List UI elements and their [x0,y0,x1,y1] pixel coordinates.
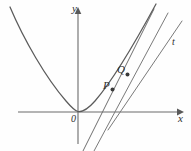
y-axis-label: y [72,3,77,14]
x-axis-label: x [178,113,183,124]
point-p-marker [111,88,115,92]
origin-label: 0 [71,114,76,124]
math-figure-parabola-tangent: y x 0 P Q t [0,0,191,151]
parabola-curve [10,4,156,112]
tangent-line-at-p [83,9,154,151]
point-q-marker [126,73,130,77]
figure-canvas [0,0,191,151]
line-t-label: t [172,37,175,47]
secant-line-outer [108,21,182,130]
point-q-label: Q [117,64,125,75]
point-p-label: P [103,80,110,91]
